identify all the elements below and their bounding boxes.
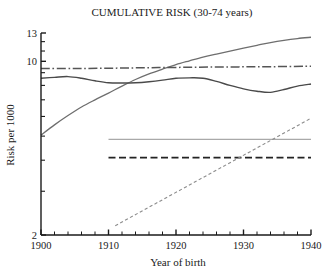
series-dash-dot-flat (41, 66, 311, 68)
cumulative-risk-chart: 1310219001910192019301940 CUMULATIVE RIS… (0, 0, 322, 272)
x-tick-label: 1900 (31, 240, 52, 251)
series-wavy-solid-dark (41, 77, 311, 93)
x-tick-label: 1920 (166, 240, 187, 251)
series-rising-dashed-gray (115, 118, 311, 225)
chart-svg: 1310219001910192019301940 CUMULATIVE RIS… (0, 0, 322, 272)
series-layer (41, 37, 311, 225)
y-axis-label: Risk per 1000 (4, 104, 16, 166)
chart-title: CUMULATIVE RISK (30-74 years) (91, 6, 252, 19)
series-rising-solid-gray-upper (41, 37, 311, 135)
y-tick-label: 10 (27, 56, 38, 67)
x-axis-label: Year of birth (150, 256, 206, 268)
y-tick-label: 2 (32, 230, 37, 241)
x-tick-label: 1910 (98, 240, 119, 251)
x-tick-label: 1940 (301, 240, 322, 251)
y-tick-label: 13 (27, 28, 38, 39)
x-tick-label: 1930 (233, 240, 254, 251)
